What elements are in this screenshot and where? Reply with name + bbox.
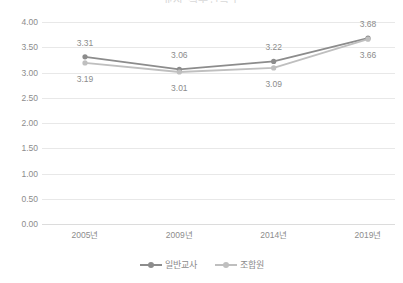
data-point-label: 3.06 — [171, 50, 188, 60]
legend-label: 일반교사 — [165, 258, 197, 271]
data-point-marker — [177, 69, 182, 74]
data-point-label: 3.68 — [360, 19, 377, 29]
data-point-marker — [271, 65, 276, 70]
legend-marker-icon — [215, 260, 237, 270]
series-line — [85, 38, 368, 69]
y-axis: 0.000.501.001.502.002.503.003.504.00 — [0, 22, 38, 224]
y-axis-tick-label: 0.50 — [4, 194, 38, 204]
y-axis-tick-label: 3.00 — [4, 68, 38, 78]
series-line — [85, 39, 368, 72]
data-point-label: 3.31 — [77, 38, 94, 48]
plot-area — [42, 22, 395, 224]
series-layer — [42, 22, 395, 224]
y-axis-tick-label: 1.50 — [4, 143, 38, 153]
y-axis-tick-label: 4.00 — [4, 17, 38, 27]
y-axis-tick-label: 2.00 — [4, 118, 38, 128]
legend-item[interactable]: 일반교사 — [140, 258, 197, 271]
data-point-marker — [365, 37, 370, 42]
data-point-label: 3.09 — [265, 79, 282, 89]
data-point-label: 3.66 — [360, 50, 377, 60]
legend-marker-icon — [140, 260, 162, 270]
x-axis: 2005년2009년2014년2019년 — [42, 228, 395, 244]
x-axis-tick-label: 2014년 — [260, 228, 287, 240]
data-point-marker — [271, 59, 276, 64]
data-point-label: 3.22 — [265, 42, 282, 52]
x-axis-tick-label: 2005년 — [72, 228, 99, 240]
line-chart: 교사 직무만족도 0.000.501.001.502.002.503.003.5… — [0, 0, 403, 283]
data-point-label: 3.19 — [77, 74, 94, 84]
legend-label: 조합원 — [240, 258, 264, 271]
x-axis-tick-label: 2019년 — [355, 228, 382, 240]
y-axis-tick-label: 2.50 — [4, 93, 38, 103]
x-axis-tick-label: 2009년 — [166, 228, 193, 240]
chart-legend: 일반교사조합원 — [0, 258, 403, 271]
y-axis-tick-label: 0.00 — [4, 219, 38, 229]
data-point-marker — [82, 54, 87, 59]
legend-item[interactable]: 조합원 — [215, 258, 264, 271]
chart-title: 교사 직무만족도 — [0, 0, 403, 3]
data-point-label: 3.01 — [171, 83, 188, 93]
y-axis-tick-label: 3.50 — [4, 42, 38, 52]
gridline — [42, 224, 395, 225]
y-axis-tick-label: 1.00 — [4, 169, 38, 179]
data-point-marker — [82, 60, 87, 65]
